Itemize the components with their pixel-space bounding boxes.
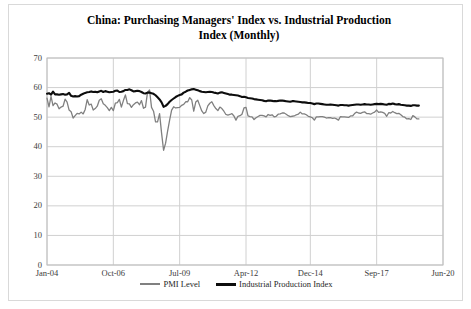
legend-label-industrial-production: Industrial Production Index — [239, 279, 332, 289]
data-series — [47, 89, 419, 150]
legend-line-swatch-pmi — [140, 283, 160, 285]
y-tick-label: 50 — [20, 112, 42, 122]
legend-line-swatch-industrial-production — [216, 283, 236, 286]
legend-label-pmi: PMI Level — [163, 279, 200, 289]
chart-figure: China: Purchasing Managers' Index vs. In… — [8, 4, 463, 301]
x-tick-label: Jun-20 — [417, 268, 469, 278]
y-tick-label: 10 — [20, 230, 42, 240]
y-tick-label: 40 — [20, 141, 42, 151]
x-tick-label: Jan-04 — [21, 268, 73, 278]
y-tick-label: 60 — [20, 82, 42, 92]
chart-legend: PMI Level Industrial Production Index — [9, 279, 464, 289]
x-tick-label: Jul-09 — [154, 268, 206, 278]
series-line-pmi-level — [47, 90, 419, 150]
x-tick-label: Apr-12 — [220, 268, 272, 278]
chart-canvas — [9, 5, 464, 302]
legend-item-industrial-production[interactable]: Industrial Production Index — [216, 279, 332, 289]
x-tick-label: Sep-17 — [351, 268, 403, 278]
y-tick-label: 20 — [20, 200, 42, 210]
plot-area: 706050403020100 Jan-04Oct-06Jul-09Apr-12… — [9, 5, 464, 302]
legend-item-pmi[interactable]: PMI Level — [140, 279, 200, 289]
x-tick-label: Oct-06 — [87, 268, 139, 278]
gridlines — [47, 58, 443, 265]
x-tick-label: Dec-14 — [284, 268, 336, 278]
plot-frame — [47, 58, 443, 265]
y-tick-label: 70 — [20, 53, 42, 63]
y-tick-label: 30 — [20, 171, 42, 181]
